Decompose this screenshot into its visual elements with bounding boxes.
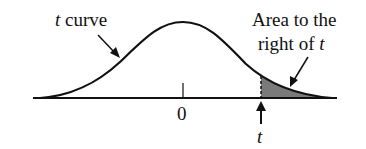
area-label-line2: right of t: [258, 33, 325, 54]
area-arrowhead-icon: [290, 76, 298, 87]
center-label: 0: [177, 103, 187, 124]
t-marker-label: t: [257, 126, 263, 147]
area-pointer-arrow-icon: [294, 57, 308, 80]
t-curve-label: t curve: [55, 9, 107, 30]
area-label-line1: Area to the: [252, 9, 336, 30]
t-marker-arrowhead-icon: [256, 101, 266, 111]
t-curve-diagram: t curve Area to the right of t 0 t: [0, 0, 366, 149]
